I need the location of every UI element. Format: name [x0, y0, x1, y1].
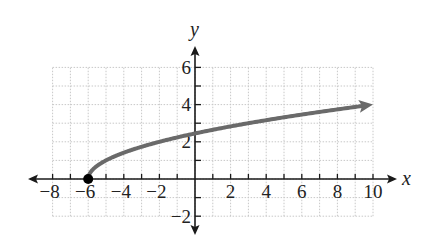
x-tick-label: 2: [226, 181, 236, 202]
x-tick-label: 6: [297, 181, 307, 202]
x-tick-label: 4: [261, 181, 271, 202]
x-tick-label: −6: [75, 181, 95, 202]
y-axis-label: y: [188, 18, 199, 41]
function-curve: [88, 106, 365, 179]
x-tick-label: −8: [39, 181, 59, 202]
x-tick-label: −4: [111, 181, 132, 202]
start-point-marker: [83, 174, 93, 184]
x-axis-label: x: [401, 167, 411, 189]
y-tick-label: 6: [182, 57, 192, 78]
grid: [53, 67, 373, 216]
y-tick-label: 4: [182, 94, 192, 115]
y-tick-label: −2: [171, 206, 191, 227]
x-tick-label: −2: [146, 181, 166, 202]
x-tick-label: 8: [333, 181, 343, 202]
function-graph: −8−6−4−2246810−2246 x y: [0, 0, 434, 244]
tick-labels: −8−6−4−2246810−2246: [39, 57, 382, 227]
x-tick-label: 10: [364, 181, 383, 202]
